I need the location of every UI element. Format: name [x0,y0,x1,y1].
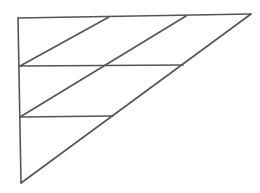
hypotenuse-line [21,14,251,183]
horizontal-2-line [20,116,113,117]
diagonal-1-line [20,17,109,66]
top-edge-line [18,14,251,18]
diagram-lines [18,14,251,183]
left-edge-line [18,18,21,183]
triangle-grid-diagram [0,0,260,193]
horizontal-1-line [20,65,183,66]
